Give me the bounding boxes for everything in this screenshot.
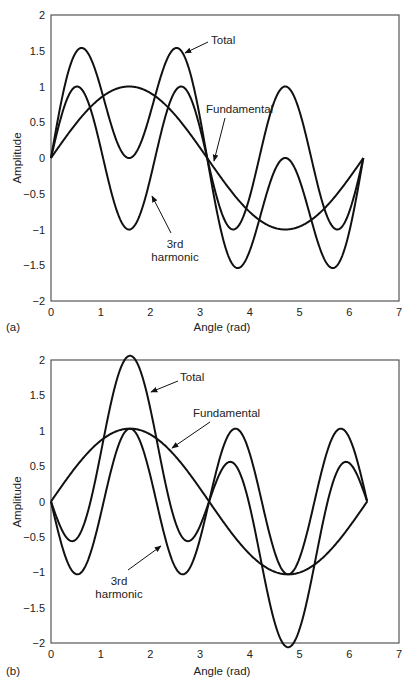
x-tick-label: 4 xyxy=(247,306,253,318)
y-tick-label: 1.5 xyxy=(30,45,45,57)
y-tick-label: −2 xyxy=(32,295,45,307)
y-tick-label: −0.5 xyxy=(23,188,45,200)
x-axis-label-a: Angle (rad) xyxy=(194,321,251,333)
figure: 21.510.50−0.5−1−1.5−2 01234567 Amplitude… xyxy=(0,0,409,686)
y-axis-label-a: Amplitude xyxy=(11,132,23,183)
y-axis-label-b: Amplitude xyxy=(11,476,23,527)
y-tick-label: 0 xyxy=(39,152,45,164)
y-tick-label: 2 xyxy=(39,9,45,21)
arrow-fundamental-b xyxy=(172,422,210,448)
arrow-3rd-harmonic-b xyxy=(128,546,161,570)
y-tick-labels-a: 21.510.50−0.5−1−1.5−2 xyxy=(23,9,45,307)
y-tick-label: −1 xyxy=(32,224,45,236)
x-tick-label: 7 xyxy=(396,648,402,660)
annotation-total-a: Total xyxy=(211,34,235,46)
curves-b xyxy=(51,356,367,648)
x-tick-label: 5 xyxy=(297,306,303,318)
annotation-total-b: Total xyxy=(180,371,204,383)
y-tick-label: 0.5 xyxy=(30,116,45,128)
annotation-3rd-harmonic-a-line1: 3rd xyxy=(167,238,184,250)
curves-a xyxy=(51,48,363,268)
annotation-3rd-harmonic-a-line2: harmonic xyxy=(151,251,199,263)
y-tick-label: −0.5 xyxy=(23,531,45,543)
y-tick-label: 0.5 xyxy=(30,460,45,472)
x-tick-label: 3 xyxy=(197,306,203,318)
x-tick-label: 7 xyxy=(396,306,402,318)
x-tick-labels-a: 01234567 xyxy=(48,306,402,318)
panel-a: 21.510.50−0.5−1−1.5−2 01234567 Amplitude… xyxy=(6,9,402,333)
panel-label-b: (b) xyxy=(6,665,20,677)
x-tick-label: 4 xyxy=(247,648,253,660)
x-tick-label: 1 xyxy=(98,306,104,318)
y-tick-label: 2 xyxy=(39,354,45,366)
annotation-3rd-harmonic-b-line1: 3rd xyxy=(111,575,128,587)
x-tick-label: 6 xyxy=(346,648,352,660)
panel-b: 21.510.50−0.5−1−1.5−2 01234567 Amplitude… xyxy=(6,354,402,677)
annotation-fundamental-b: Fundamental xyxy=(193,407,260,419)
x-axis-label-b: Angle (rad) xyxy=(194,665,251,677)
y-tick-label: −1.5 xyxy=(23,602,45,614)
y-tick-label: 0 xyxy=(39,496,45,508)
y-tick-label: 1 xyxy=(39,81,45,93)
x-tick-label: 1 xyxy=(98,648,104,660)
y-tick-label: 1.5 xyxy=(30,389,45,401)
y-tick-label: −1 xyxy=(32,566,45,578)
arrow-fundamental-a xyxy=(214,118,225,161)
x-tick-label: 6 xyxy=(346,306,352,318)
y-tick-label: 1 xyxy=(39,425,45,437)
x-tick-label: 3 xyxy=(197,648,203,660)
annotation-3rd-harmonic-b-line2: harmonic xyxy=(95,588,143,600)
x-tick-label: 0 xyxy=(48,648,54,660)
y-tick-labels-b: 21.510.50−0.5−1−1.5−2 xyxy=(23,354,45,649)
y-tick-label: −2 xyxy=(32,637,45,649)
arrow-3rd-harmonic-a xyxy=(152,196,171,233)
y-tick-label: −1.5 xyxy=(23,259,45,271)
x-tick-labels-b: 01234567 xyxy=(48,648,402,660)
panel-label-a: (a) xyxy=(6,321,20,333)
annotation-fundamental-a: Fundamental xyxy=(206,103,273,115)
x-tick-label: 2 xyxy=(147,648,153,660)
total-curve xyxy=(51,48,363,268)
x-tick-label: 2 xyxy=(147,306,153,318)
x-tick-label: 5 xyxy=(297,648,303,660)
x-tick-label: 0 xyxy=(48,306,54,318)
total-curve xyxy=(51,356,367,648)
arrow-total-a xyxy=(185,42,208,53)
arrow-total-b xyxy=(151,381,178,392)
